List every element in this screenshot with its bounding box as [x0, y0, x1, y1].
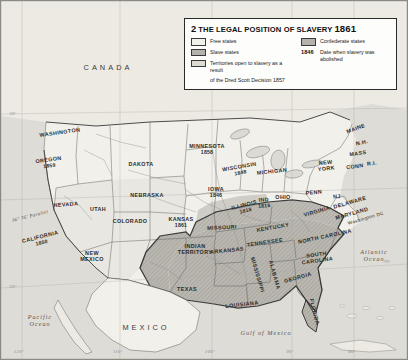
legend-label-free: Free states [210, 38, 237, 45]
map-legend: 2THE LEGAL POSITION OF SLAVERY 1861 Free… [184, 18, 397, 90]
legend-label-territories: Territories open to slavery as a result [210, 60, 293, 74]
legend-number: 2 [191, 23, 196, 34]
legend-swatch-slave-icon [191, 49, 206, 57]
legend-date-sample: 1846 [301, 49, 316, 55]
legend-title: 2THE LEGAL POSITION OF SLAVERY 1861 [191, 23, 390, 34]
legend-title-text: THE LEGAL POSITION OF SLAVERY [198, 25, 332, 34]
legend-item-territories: Territories open to slavery as a result [191, 60, 293, 74]
legend-item-confederate: Confederate states [301, 38, 390, 46]
legend-year: 1861 [334, 23, 356, 34]
legend-swatch-free-icon [191, 38, 206, 46]
legend-date-label: Date when slavery was abolished [320, 49, 390, 63]
legend-label-slave: Slave states [210, 49, 239, 56]
legend-swatch-confederate-icon [301, 38, 316, 46]
legend-label-confederate: Confederate states [320, 38, 365, 45]
legend-item-slave: Slave states [191, 49, 293, 57]
legend-label-territories-line2: of the Dred Scott Decision 1857 [191, 77, 293, 84]
legend-swatch-territories-icon [191, 60, 206, 68]
legend-item-date-key: 1846 Date when slavery was abolished [301, 49, 390, 63]
slavery-1861-map: 2THE LEGAL POSITION OF SLAVERY 1861 Free… [0, 0, 408, 360]
legend-item-free: Free states [191, 38, 293, 46]
